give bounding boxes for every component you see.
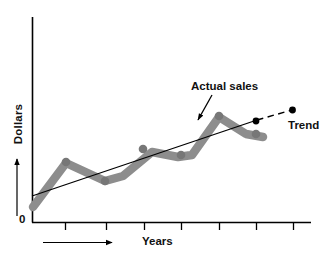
data-point-marker [62, 158, 71, 167]
y-axis-zero-label: 0 [19, 213, 25, 225]
chart-canvas [0, 0, 327, 259]
data-point-marker [139, 145, 148, 154]
trend-annotation-label: Trend [288, 119, 319, 131]
actual-sales-leader-arrow [198, 95, 212, 120]
data-point-marker [215, 112, 224, 121]
trend-projection-dashed [257, 110, 292, 120]
data-point-marker [101, 177, 110, 186]
data-point-marker [252, 130, 261, 139]
axes-group [32, 17, 311, 223]
data-point-marker [177, 151, 186, 160]
trend-point-marker [289, 107, 296, 114]
trend-point-marker [253, 118, 260, 125]
y-axis-label: Dollars [12, 94, 24, 154]
actual-sales-annotation-label: Actual sales [191, 80, 258, 92]
sales-trend-chart: Dollars 0 Years Actual sales Trend [0, 0, 327, 259]
x-axis-label: Years [142, 235, 173, 247]
